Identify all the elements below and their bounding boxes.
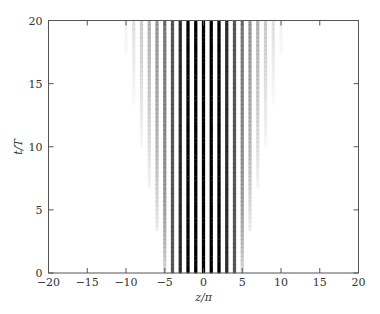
y-tick-label: 5 xyxy=(36,204,43,217)
fringe-heatmap-chart: −20−15−10−505101520 05101520 z/π t/T xyxy=(0,0,380,314)
x-axis-label: z/π xyxy=(194,291,213,304)
x-tick-label: −10 xyxy=(114,276,137,289)
y-tick-label: 15 xyxy=(29,78,43,91)
x-tick-label: 20 xyxy=(352,276,366,289)
y-tick-label: 20 xyxy=(29,15,43,28)
y-tick-label: 0 xyxy=(36,267,43,280)
x-tick-label: 10 xyxy=(274,276,288,289)
y-tick-label: 10 xyxy=(29,141,43,154)
x-tick-label: −15 xyxy=(76,276,99,289)
x-tick-label: 5 xyxy=(239,276,246,289)
plot-area xyxy=(124,21,282,274)
x-tick-label: 15 xyxy=(313,276,327,289)
x-axis-ticks: −20−15−10−505101520 xyxy=(37,21,366,290)
x-tick-label: −5 xyxy=(157,276,173,289)
y-axis-label: t/T xyxy=(12,138,25,155)
x-tick-label: 0 xyxy=(200,276,207,289)
y-axis-ticks: 05101520 xyxy=(29,15,359,281)
